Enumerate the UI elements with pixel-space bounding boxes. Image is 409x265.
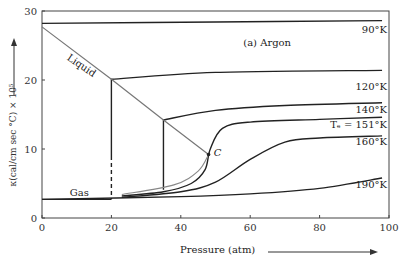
x-tick-label: 80 — [313, 222, 326, 233]
annotation: Gas — [70, 187, 89, 198]
y-tick-label: 30 — [24, 6, 37, 17]
x-tick-label: 40 — [174, 222, 187, 233]
series-label: Tₑ = 151°K — [330, 119, 387, 130]
data-lines — [42, 21, 382, 200]
y-axis-label: κ(cal/cm sec °C) × 10⁵ — [8, 60, 18, 210]
x-arrow-head-icon — [370, 249, 378, 255]
series-label: 190°K — [355, 179, 387, 190]
x-tick-label: 100 — [379, 222, 398, 233]
series-label: 90°K — [362, 24, 388, 35]
annotation: C — [214, 147, 222, 158]
y-tick-label: 20 — [24, 75, 37, 86]
series-label: 160°K — [355, 136, 387, 147]
chart-canvas: 0204060801000102030 LiquidGasC(a) Argon9… — [0, 0, 409, 265]
x-tick-label: 20 — [105, 222, 118, 233]
labels: LiquidGasC(a) Argon90°K120°K140°KTₑ = 15… — [65, 24, 387, 198]
y-tick-label: 0 — [31, 213, 37, 224]
y-tick-label: 10 — [24, 144, 37, 155]
x-tick-label: 60 — [244, 222, 257, 233]
plot-frame — [42, 11, 389, 218]
series-line — [42, 178, 382, 199]
y-arrow-head-icon — [11, 38, 17, 46]
axes — [42, 11, 389, 218]
series-line — [163, 103, 382, 190]
series-label: 140°K — [355, 104, 387, 115]
annotation: (a) Argon — [243, 37, 291, 48]
series-line — [42, 27, 209, 155]
series-line — [42, 21, 382, 24]
x-axis-label: Pressure (atm) — [180, 244, 255, 255]
series-label: 120°K — [355, 81, 387, 92]
series-line — [111, 70, 382, 156]
critical-point-marker — [207, 153, 211, 157]
x-tick-label: 0 — [39, 222, 45, 233]
